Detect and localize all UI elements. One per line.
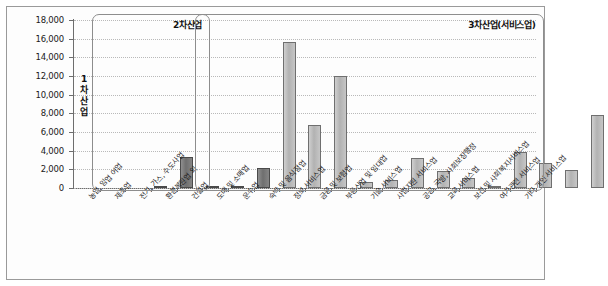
group-label: 2차산업 [173, 18, 202, 31]
x-axis-tick [331, 188, 332, 192]
y-axis-tick [69, 95, 74, 96]
x-axis-tick [485, 188, 486, 192]
y-axis-tick [69, 113, 74, 114]
x-axis-tick [305, 188, 306, 192]
bar[interactable] [591, 115, 604, 188]
x-axis-tick [279, 188, 280, 192]
bar-slot [586, 20, 608, 188]
x-axis-tick [510, 188, 511, 192]
x-axis-tick [356, 188, 357, 192]
x-axis-tick [228, 188, 229, 192]
group-label: 3차산업(서비스업) [468, 18, 536, 31]
y-axis-tick [69, 20, 74, 21]
x-axis-tick-label: 건설업 [188, 179, 210, 201]
x-axis-tick-label: 운수업 [239, 179, 261, 201]
x-axis-tick-label: 제조업 [111, 179, 133, 201]
x-axis-tick [459, 188, 460, 192]
x-axis-tick [151, 188, 152, 192]
x-axis-tick [408, 188, 409, 192]
x-axis-tick [433, 188, 434, 192]
y-axis-tick [69, 39, 74, 40]
y-axis-tick [69, 188, 74, 189]
x-axis-tick [536, 188, 537, 192]
y-axis-tick [69, 151, 74, 152]
y-axis-tick [69, 169, 74, 170]
x-axis-tick [382, 188, 383, 192]
y-axis-tick [69, 57, 74, 58]
bar[interactable] [565, 170, 578, 188]
y-axis-tick [69, 76, 74, 77]
x-axis-tick [254, 188, 255, 192]
x-axis-tick [100, 188, 101, 192]
y-axis-tick [69, 132, 74, 133]
x-axis-tick [177, 188, 178, 192]
x-axis-tick [125, 188, 126, 192]
x-axis-tick [202, 188, 203, 192]
